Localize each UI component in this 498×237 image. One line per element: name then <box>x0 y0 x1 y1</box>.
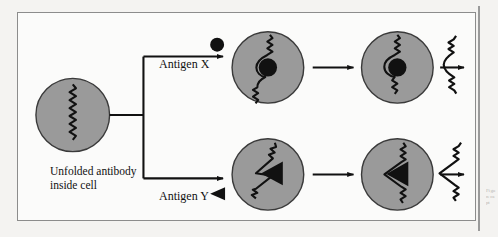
folded-antibody-x-shape <box>444 36 457 94</box>
figure-panel: Unfolded antibodyinside cell Antigen X A… <box>17 12 476 221</box>
label-unfolded-antibody: Unfolded antibodyinside cell <box>50 165 160 192</box>
label-unfolded-line1: Unfolded antibody <box>50 165 137 177</box>
label-antigen-x: Antigen X <box>159 57 209 72</box>
margin-caption-fragment: Fi gu re ca pt <box>486 188 498 206</box>
label-antigen-y: Antigen Y <box>159 189 209 204</box>
folded-antibody-y-shape <box>440 143 462 201</box>
label-unfolded-line2: inside cell <box>50 179 97 191</box>
page-column-rule <box>478 6 480 231</box>
